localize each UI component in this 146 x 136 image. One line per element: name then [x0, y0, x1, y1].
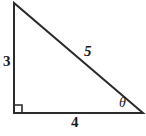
right-triangle-figure: 3 5 4 θ — [0, 0, 146, 136]
side-label-hypotenuse: 5 — [84, 44, 92, 59]
angle-label-theta: θ — [119, 96, 126, 110]
side-label-horizontal-leg: 4 — [71, 115, 79, 130]
right-angle-marker-icon — [14, 105, 22, 113]
side-label-vertical-leg: 3 — [3, 54, 11, 69]
